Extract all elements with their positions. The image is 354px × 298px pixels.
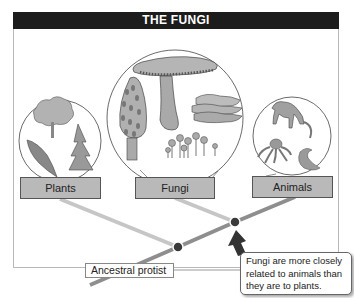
node-ancestral xyxy=(173,242,183,252)
tree-icon xyxy=(33,97,73,126)
branch-plants xyxy=(60,199,178,247)
relationship-callout: Fungi are more closely related to animal… xyxy=(240,252,352,295)
fungi-label: Fungi xyxy=(135,177,215,199)
branch-opisthokont xyxy=(178,222,235,247)
branch-animals xyxy=(235,197,295,222)
branch-fungi xyxy=(175,198,235,222)
node-fungi-animals xyxy=(230,217,240,227)
plants-illustration xyxy=(19,97,101,182)
plants-label: Plants xyxy=(20,177,101,199)
ancestral-protist-label: Ancestral protist xyxy=(85,263,174,278)
animals-illustration xyxy=(253,97,331,176)
fungi-illustration xyxy=(107,50,243,186)
animals-label: Animals xyxy=(252,176,333,198)
shelf-fungus-icon xyxy=(192,94,242,122)
